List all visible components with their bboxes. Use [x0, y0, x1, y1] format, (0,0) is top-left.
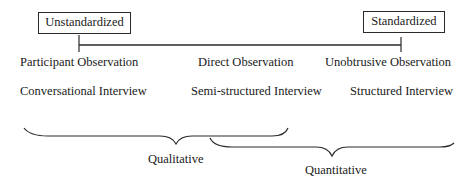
conversational-interview-label: Conversational Interview [20, 84, 147, 98]
semi-structured-interview-label: Semi-structured Interview [191, 84, 322, 98]
direct-observation-label: Direct Observation [198, 55, 293, 69]
standardized-box: Standardized [363, 11, 445, 33]
unstandardized-box: Unstandardized [38, 12, 131, 34]
qualitative-label: Qualitative [148, 152, 204, 166]
unstandardized-label: Unstandardized [45, 15, 123, 29]
quantitative-label: Quantitative [305, 163, 367, 177]
qualitative-brace-icon [24, 128, 288, 144]
quantitative-brace-icon [210, 138, 454, 156]
participant-observation-label: Participant Observation [20, 55, 138, 69]
diagram-canvas: Unstandardized Standardized Participant … [0, 0, 472, 188]
unobtrusive-observation-label: Unobtrusive Observation [325, 55, 451, 69]
structured-interview-label: Structured Interview [350, 84, 453, 98]
standardized-label: Standardized [371, 14, 436, 28]
